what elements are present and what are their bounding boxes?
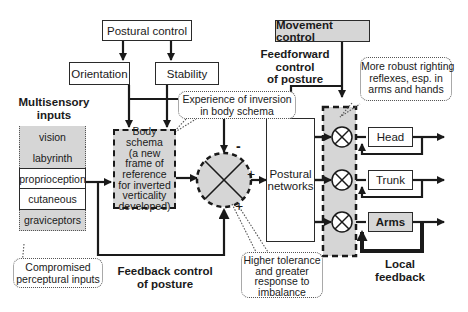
sensory-item-labyrinth: labyrinth [19,147,86,168]
callout-righting: More robust righting reflexes, esp. in a… [360,57,452,101]
sensory-item-graviceptors: graviceptors [19,210,86,231]
stability-box: Stability [155,62,219,85]
body-schema-line: schema [126,137,163,148]
sensory-item-proprioception: proprioception [19,168,86,189]
local-feedback-label: Local feedback [370,258,430,283]
postural-control-box: Postural control [102,20,192,41]
callout-line: imbalance [242,287,322,298]
movement-control-box: Movement control [275,20,370,42]
postural-networks-box: Postural networks [266,118,315,242]
callout-line: Compromised [14,262,102,274]
plus-sign-bottom: + [235,200,243,212]
postural-networks-line: networks [267,180,313,192]
multisensory-heading: Multisensory inputs [10,96,98,121]
output-trunk-box: Trunk [368,170,413,190]
callout-line: arms and hands [361,84,451,96]
orientation-box: Orientation [69,62,130,85]
feedback-line: of posture [110,278,220,291]
local-feedback-line: Local [370,258,430,271]
callout-experience: Experience of inversion in body schema [178,91,296,119]
minus-sign: - [236,140,241,152]
output-head-box: Head [368,127,413,147]
feedback-line: Feedback control [110,265,220,278]
callout-tolerance: Higher tolerance and greater response to… [241,252,323,298]
callout-line: More robust righting [361,61,451,73]
local-feedback-line: feedback [370,271,430,284]
heading-line: Multisensory [10,96,98,109]
callout-line: response to [242,276,322,287]
body-schema-line: developed) [119,201,171,212]
output-arms-box: Arms [368,212,413,232]
callout-line: Experience of inversion [179,94,295,106]
callout-compromised: Compromised perceptural inputs [13,258,103,288]
feedforward-line: of posture [250,73,340,86]
feedforward-line: control [250,61,340,74]
sensory-item-cutaneous: cutaneous [19,189,86,210]
heading-line: inputs [10,109,98,122]
callout-line: Higher tolerance [242,255,322,266]
multiplier-node [332,127,352,232]
sensory-item-vision: vision [19,126,86,147]
body-schema-box: Body schema (a new frame of reference fo… [113,129,176,209]
callout-line: perceptural inputs [14,274,102,286]
callout-line: in body schema [179,106,295,118]
feedforward-label: Feedforward control of posture [250,48,340,86]
feedback-label: Feedback control of posture [110,265,220,290]
feedforward-line: Feedforward [250,48,340,61]
postural-networks-line: Postural [269,168,311,180]
plus-sign-right: + [247,168,255,180]
